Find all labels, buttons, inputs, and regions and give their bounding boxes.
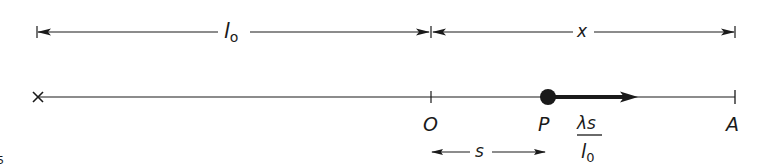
force-label-fraction: λs l0	[576, 113, 602, 165]
s-label: s	[475, 141, 484, 161]
point-p-label: P	[538, 113, 550, 135]
force-label-numerator: λs	[576, 113, 596, 133]
displacement-diagram: lo x O P A λs l0 s 5	[0, 0, 763, 166]
main-line	[33, 90, 735, 104]
l0-label: lo	[224, 19, 238, 45]
point-a-label: A	[724, 113, 739, 135]
top-dimension	[37, 26, 735, 38]
point-p-dot	[540, 89, 556, 105]
force-label-denominator: l0	[581, 140, 595, 165]
point-o-label: O	[423, 113, 438, 135]
x-label: x	[576, 21, 588, 41]
figure-number-fragment: 5	[0, 154, 4, 166]
